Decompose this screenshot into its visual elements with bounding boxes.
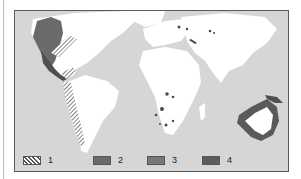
legend-label: 4 <box>227 155 232 165</box>
legend-item-4: 4 <box>202 155 232 165</box>
hatched-swatch-icon <box>23 156 41 165</box>
legend-label: 2 <box>118 155 123 165</box>
solid-swatch-icon <box>147 156 165 165</box>
dark-swatch-icon <box>202 156 220 165</box>
left-margin-rule <box>3 0 4 179</box>
legend-item-3: 3 <box>147 155 177 165</box>
solid-swatch-icon <box>93 156 111 165</box>
legend-item-1: 1 <box>23 155 53 165</box>
land-masses <box>31 11 277 153</box>
legend-item-2: 2 <box>93 155 123 165</box>
map-legend: 1 2 3 4 <box>15 147 289 171</box>
legend-label: 3 <box>172 155 177 165</box>
legend-label: 1 <box>48 155 53 165</box>
world-map: 1 2 3 4 <box>14 10 289 172</box>
